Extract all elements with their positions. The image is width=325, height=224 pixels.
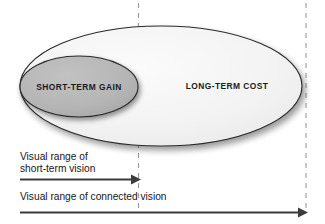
short-term-vision-label-line1: Visual range of	[20, 151, 88, 162]
short-term-vision-arrow	[20, 175, 141, 185]
outer-ellipse-label: LONG-TERM COST	[186, 81, 269, 91]
connected-vision-arrow	[20, 208, 308, 218]
connected-vision-label: Visual range of connected vision	[20, 191, 167, 202]
diagram-canvas: LONG-TERM COST SHORT-TERM GAIN Visual ra…	[0, 0, 325, 224]
short-term-vision-label-line2: short-term vision	[20, 163, 95, 174]
inner-ellipse-label: SHORT-TERM GAIN	[36, 82, 121, 92]
